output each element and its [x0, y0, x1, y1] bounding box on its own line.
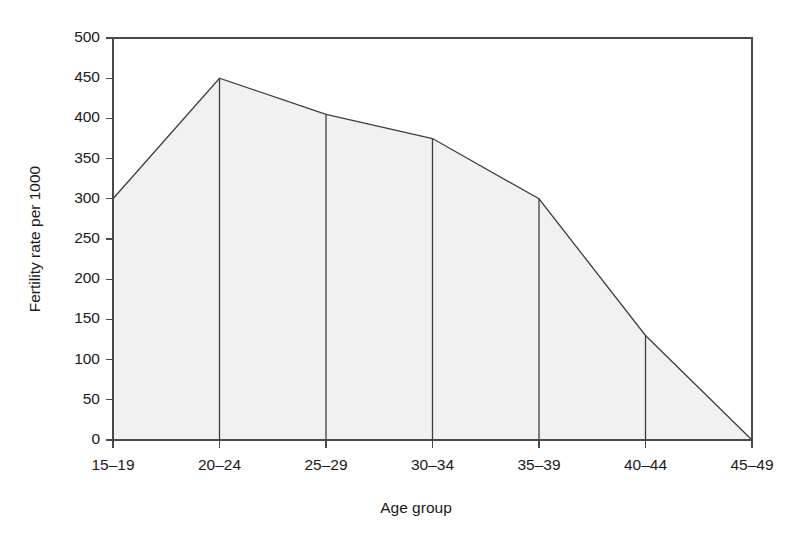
y-tick-label: 250	[74, 229, 100, 246]
x-tick-label: 35–39	[517, 456, 560, 473]
y-tick-label: 100	[74, 350, 100, 367]
y-tick-label: 50	[83, 390, 101, 407]
y-tick-label: 0	[91, 430, 100, 447]
y-tick-label: 200	[74, 269, 100, 286]
chart-figure: 050100150200250300350400450500 15–1920–2…	[0, 0, 804, 536]
x-tick-label: 45–49	[730, 456, 773, 473]
y-tick-label: 150	[74, 309, 100, 326]
x-tick-label: 40–44	[624, 456, 667, 473]
x-tick-label: 15–19	[91, 456, 134, 473]
x-tick-label: 30–34	[411, 456, 454, 473]
y-tick-label: 350	[74, 149, 100, 166]
x-tick-label: 25–29	[304, 456, 347, 473]
y-tick-label: 500	[74, 28, 100, 45]
y-tick-label: 450	[74, 68, 100, 85]
fertility-rate-area-chart: 050100150200250300350400450500 15–1920–2…	[0, 0, 804, 536]
y-tick-label: 300	[74, 189, 100, 206]
y-tick-label: 400	[74, 108, 100, 125]
y-axis-title: Fertility rate per 1000	[26, 165, 43, 312]
x-axis-title: Age group	[380, 499, 452, 516]
x-tick-label: 20–24	[198, 456, 241, 473]
